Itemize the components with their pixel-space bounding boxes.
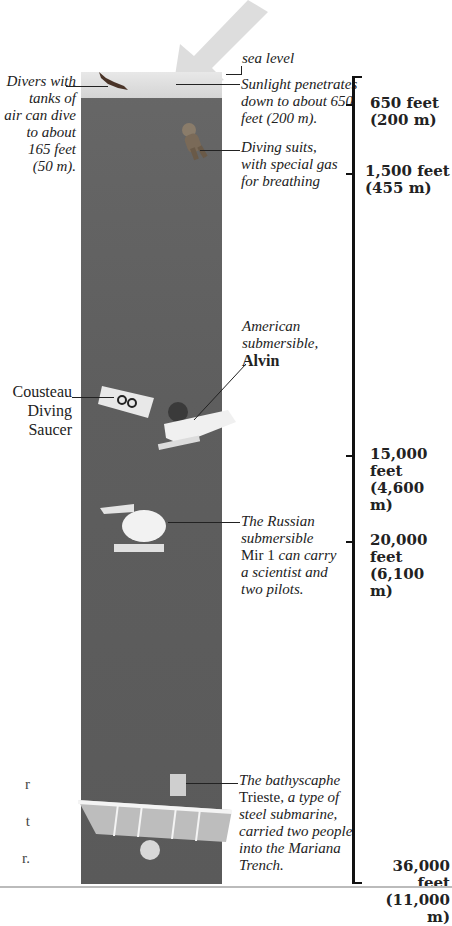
caption-line: American (242, 318, 318, 335)
sunlight-leader-line (176, 84, 240, 85)
caption-fragment: r (0, 766, 30, 803)
scale-tick-650 (346, 104, 354, 106)
depth-meters: (455 m) (365, 180, 450, 197)
caption-line: down to about 650 (241, 93, 357, 110)
caption-fragment: r. (0, 840, 30, 877)
divers-caption: Divers with tanks of air can dive to abo… (0, 73, 76, 175)
caption-line: Saucer (0, 420, 72, 439)
caption-line: , a type of (280, 789, 339, 805)
caption-line: air can dive (0, 107, 76, 124)
depth-feet: 15,000 feet (370, 446, 452, 480)
diving-suits-caption: Diving suits, with special gas for breat… (241, 139, 338, 190)
caption-line: The Russian (241, 513, 336, 530)
cousteau-caption: Cousteau Diving Saucer (0, 382, 72, 439)
caption-fragment: t (0, 803, 30, 840)
caption-line: Divers with (0, 73, 76, 90)
scale-top-cap (352, 76, 362, 78)
caption-line: tanks of (0, 90, 76, 107)
depth-label-650: 650 feet (200 m) (370, 95, 439, 129)
left-text-fragments: r t r. (0, 766, 30, 877)
caption-line: Trench. (239, 857, 352, 874)
divers-leader-line (66, 86, 108, 87)
alvin-leader-line (190, 362, 250, 424)
depth-label-1500: 1,500 feet (455 m) (365, 163, 450, 197)
depth-meters: (4,600 m) (370, 480, 452, 514)
depth-meters: (11,000 m) (358, 892, 450, 926)
caption-line: 165 feet (0, 141, 76, 158)
scale-tick-20000 (346, 541, 354, 543)
caption-line: The bathyscaphe (239, 772, 352, 789)
diving-suit-icon (176, 120, 210, 162)
caption-line: submersible, (242, 335, 318, 352)
caption-line: (50 m). (0, 158, 76, 175)
caption-line: submersible (241, 530, 336, 547)
mir-submersible-icon (98, 500, 182, 560)
caption-line: can carry (275, 547, 337, 563)
caption-line: Sunlight penetrates (241, 76, 357, 93)
depth-label-15000: 15,000 feet (4,600 m) (370, 446, 452, 514)
sea-level-leader-line (226, 74, 242, 75)
caption-line: two pilots. (241, 581, 336, 598)
depth-feet: 1,500 feet (365, 163, 450, 180)
depth-label-36000: 36,000 feet (11,000 m) (358, 858, 450, 926)
depth-label-20000: 20,000 feet (6,100 m) (370, 532, 452, 600)
caption-line: feet (200 m). (241, 110, 357, 127)
sea-level-leader-vertical (241, 66, 242, 74)
trieste-name: Trieste (239, 789, 280, 805)
depth-meters: (6,100 m) (370, 566, 452, 600)
depth-meters: (200 m) (370, 112, 439, 129)
mir-caption: The Russian submersible Mir 1 can carry … (241, 513, 336, 598)
alvin-caption: American submersible, Alvin (242, 318, 318, 369)
scuba-diver-icon (96, 70, 136, 98)
caption-line: for breathing (241, 173, 338, 190)
caption-line: Cousteau (0, 382, 72, 401)
sea-level-caption: sea level (242, 50, 294, 67)
caption-line: carried two people (239, 823, 352, 840)
trieste-leader-line (186, 783, 238, 784)
trieste-caption: The bathyscaphe Trieste, a type of steel… (239, 772, 352, 874)
caption-line: steel submarine, (239, 806, 352, 823)
alvin-name: Alvin (242, 352, 318, 369)
sunlight-caption: Sunlight penetrates down to about 650 fe… (241, 76, 357, 127)
scale-tick-1500 (346, 173, 354, 175)
mir-name: Mir 1 (241, 547, 275, 563)
bottom-divider (0, 886, 452, 888)
caption-line: Diving (0, 401, 72, 420)
caption-line: Diving suits, (241, 139, 338, 156)
diving-suits-leader-line (200, 150, 240, 151)
caption-line: to about (0, 124, 76, 141)
depth-feet: 20,000 feet (370, 532, 452, 566)
caption-line: a scientist and (241, 564, 336, 581)
scale-tick-15000 (346, 455, 354, 457)
mir-leader-line (168, 522, 240, 523)
depth-feet: 650 feet (370, 95, 439, 112)
caption-line: into the Mariana (239, 840, 352, 857)
cousteau-leader-line (72, 397, 114, 398)
ocean-column (81, 72, 222, 884)
depth-scale-bar (352, 77, 355, 884)
caption-line: with special gas (241, 156, 338, 173)
